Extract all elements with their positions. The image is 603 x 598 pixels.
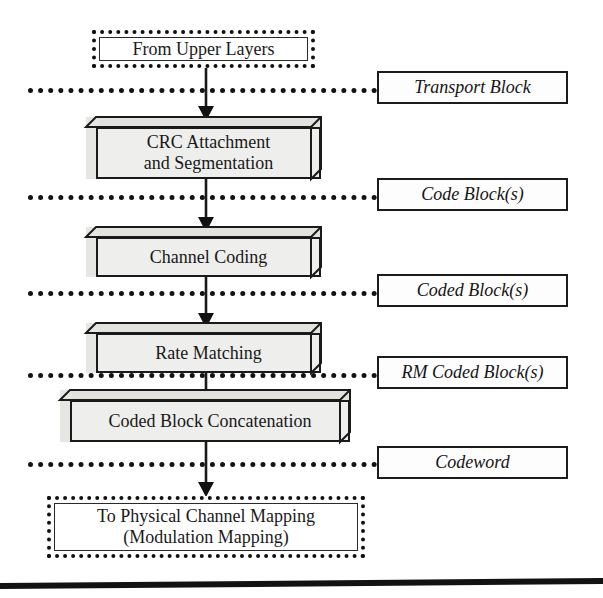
separator-line-coded-blocks <box>28 291 377 296</box>
process-crc-attachment-and-segmentation: CRC Attachment and Segmentation <box>86 117 321 179</box>
data-label-coded-blocks: Coded Block(s) <box>377 274 568 307</box>
separator-line-codeword <box>28 462 377 467</box>
data-label-transport-block: Transport Block <box>377 71 568 104</box>
page-bottom-rule <box>0 578 603 592</box>
data-label-codeword-text: Codeword <box>435 452 509 473</box>
data-label-rm-coded-blocks: RM Coded Block(s) <box>377 356 568 389</box>
block-front-face: CRC Attachment and Segmentation <box>96 127 321 179</box>
block-front-face: Coded Block Concatenation <box>70 400 350 442</box>
process-crc-label-line-2: and Segmentation <box>144 153 273 174</box>
data-label-coded-blocks-text: Coded Block(s) <box>417 280 528 301</box>
data-label-transport-block-text: Transport Block <box>414 77 531 98</box>
terminal-from-upper-layers: From Upper Layers <box>92 30 315 68</box>
process-crc-label-line-1: CRC Attachment <box>144 132 273 153</box>
separator-line-rm-coded-blocks <box>28 373 377 378</box>
process-coded-block-concatenation: Coded Block Concatenation <box>60 390 350 442</box>
terminal-to-physical-channel-mapping: To Physical Channel Mapping (Modulation … <box>47 496 365 558</box>
process-rate-matching: Rate Matching <box>86 323 321 373</box>
connector-concatenation-to-physical-mapping <box>196 442 216 498</box>
block-front-face: Channel Coding <box>96 237 321 277</box>
data-label-codeword: Codeword <box>377 446 568 479</box>
terminal-from-upper-layers-label: From Upper Layers <box>133 39 275 60</box>
connector-upper-to-crc <box>196 68 216 122</box>
separator-line-code-blocks <box>28 195 377 200</box>
process-channel-coding: Channel Coding <box>86 227 321 277</box>
process-coded-block-concatenation-label: Coded Block Concatenation <box>109 411 312 432</box>
data-label-rm-coded-blocks-text: RM Coded Block(s) <box>402 362 544 383</box>
transport-channel-processing-diagram: From Upper Layers Transport Block CRC At… <box>0 0 603 598</box>
separator-line-transport-block <box>28 88 377 93</box>
block-front-face: Rate Matching <box>96 333 321 373</box>
process-channel-coding-label: Channel Coding <box>150 247 268 268</box>
connector-crc-to-channel-coding <box>196 179 216 233</box>
data-label-code-blocks-text: Code Block(s) <box>421 184 523 205</box>
data-label-code-blocks: Code Block(s) <box>377 178 568 211</box>
connector-channel-coding-to-rate-matching <box>196 277 216 329</box>
process-rate-matching-label: Rate Matching <box>155 343 261 364</box>
terminal-to-physical-label-line-1: To Physical Channel Mapping <box>97 506 315 527</box>
terminal-to-physical-label-line-2: (Modulation Mapping) <box>97 527 315 548</box>
